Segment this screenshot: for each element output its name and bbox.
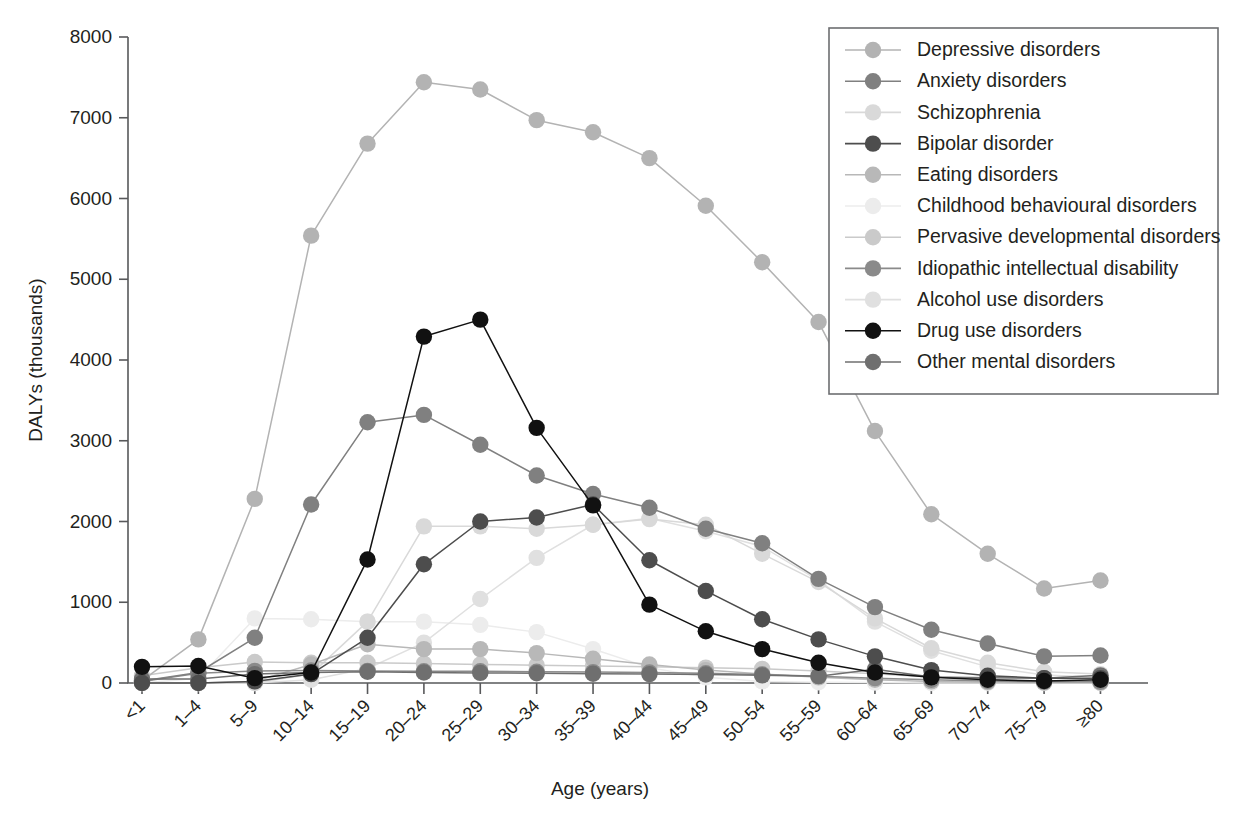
legend: Depressive disordersAnxiety disordersSch… xyxy=(829,28,1221,394)
data-point xyxy=(528,509,544,525)
x-tick-label: 25–29 xyxy=(438,696,488,746)
legend-swatch-marker xyxy=(865,42,881,58)
data-point xyxy=(247,670,263,686)
data-point xyxy=(923,506,939,522)
data-point xyxy=(359,135,375,151)
series-schizophrenia xyxy=(134,511,1109,691)
data-point xyxy=(641,552,657,568)
legend-swatch-marker xyxy=(865,354,881,370)
data-point xyxy=(754,641,770,657)
legend-item-label: Other mental disorders xyxy=(917,350,1116,372)
legend-item-label: Bipolar disorder xyxy=(917,132,1054,154)
y-tick-label: 0 xyxy=(101,672,112,693)
data-point xyxy=(810,631,826,647)
x-tick-label: 65–69 xyxy=(889,696,939,746)
data-point xyxy=(359,551,375,567)
data-point xyxy=(1092,572,1108,588)
y-axis-title: DALYs (thousands) xyxy=(25,278,46,441)
data-point xyxy=(641,500,657,516)
legend-item-label: Eating disorders xyxy=(917,163,1058,185)
y-tick-label: 6000 xyxy=(70,188,112,209)
data-point xyxy=(416,613,432,629)
x-tick-label: 1–4 xyxy=(170,696,205,731)
legend-swatch-marker xyxy=(865,323,881,339)
data-point xyxy=(923,640,939,656)
y-tick-label: 2000 xyxy=(70,511,112,532)
data-point xyxy=(528,550,544,566)
legend-swatch-marker xyxy=(865,73,881,89)
x-tick-label: 30–34 xyxy=(494,696,544,746)
data-point xyxy=(1036,580,1052,596)
y-tick-label: 8000 xyxy=(70,26,112,47)
data-point xyxy=(247,491,263,507)
page-edge-artifact xyxy=(0,800,1243,826)
legend-item-label: Drug use disorders xyxy=(917,319,1082,341)
x-tick-label: <1 xyxy=(120,696,149,725)
y-tick-label: 4000 xyxy=(70,349,112,370)
data-point xyxy=(585,497,601,513)
legend-swatch-marker xyxy=(865,291,881,307)
data-point xyxy=(810,571,826,587)
data-point xyxy=(416,641,432,657)
data-point xyxy=(247,630,263,646)
data-point xyxy=(641,666,657,682)
series-anxiety-disorders xyxy=(134,407,1109,689)
data-point xyxy=(980,546,996,562)
data-point xyxy=(303,496,319,512)
data-point xyxy=(472,513,488,529)
data-point xyxy=(698,583,714,599)
data-point xyxy=(641,596,657,612)
data-point xyxy=(1092,672,1108,688)
x-tick-label: 70–74 xyxy=(945,696,995,746)
x-tick-label: 40–44 xyxy=(607,696,657,746)
data-point xyxy=(528,665,544,681)
data-point xyxy=(303,664,319,680)
series-line xyxy=(142,415,1100,681)
data-point xyxy=(754,611,770,627)
data-point xyxy=(472,591,488,607)
data-point xyxy=(867,648,883,664)
data-point xyxy=(190,658,206,674)
chart-figure: 010002000300040005000600070008000<11–45–… xyxy=(0,0,1243,826)
x-tick-label: 75–79 xyxy=(1001,696,1051,746)
data-point xyxy=(810,314,826,330)
legend-item-label: Childhood behavioural disorders xyxy=(917,194,1197,216)
data-point xyxy=(585,666,601,682)
data-point xyxy=(303,611,319,627)
data-point xyxy=(416,664,432,680)
legend-swatch-marker xyxy=(865,260,881,276)
data-point xyxy=(472,641,488,657)
x-tick-label: 50–54 xyxy=(719,696,769,746)
data-point xyxy=(416,556,432,572)
data-point xyxy=(698,623,714,639)
x-tick-label: 10–14 xyxy=(268,696,318,746)
legend-swatch-marker xyxy=(865,229,881,245)
x-tick-label: 20–24 xyxy=(381,696,431,746)
data-point xyxy=(754,535,770,551)
y-tick-label: 5000 xyxy=(70,268,112,289)
data-point xyxy=(472,665,488,681)
data-point xyxy=(472,81,488,97)
data-point xyxy=(585,517,601,533)
data-point xyxy=(528,624,544,640)
x-tick-label: 15–19 xyxy=(325,696,375,746)
y-tick-label: 7000 xyxy=(70,107,112,128)
data-point xyxy=(810,655,826,671)
data-point xyxy=(980,635,996,651)
data-point xyxy=(528,112,544,128)
data-point xyxy=(1092,647,1108,663)
y-tick-label: 1000 xyxy=(70,591,112,612)
data-point xyxy=(416,407,432,423)
data-point xyxy=(190,675,206,691)
y-tick-label: 3000 xyxy=(70,430,112,451)
data-point xyxy=(134,659,150,675)
legend-item-label: Depressive disorders xyxy=(917,38,1100,60)
data-point xyxy=(190,631,206,647)
legend-item-label: Pervasive developmental disorders xyxy=(917,225,1221,247)
data-point xyxy=(359,613,375,629)
data-point xyxy=(528,645,544,661)
data-point xyxy=(416,74,432,90)
data-point xyxy=(923,622,939,638)
legend-item-label: Alcohol use disorders xyxy=(917,288,1104,310)
data-point xyxy=(754,667,770,683)
